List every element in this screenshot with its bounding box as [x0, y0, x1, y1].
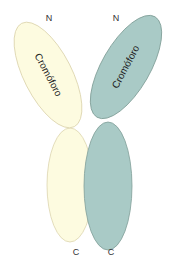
- left-c-terminus-label: C: [73, 247, 80, 257]
- right-c-domain: [84, 122, 132, 250]
- left-n-terminus-label: N: [46, 13, 53, 23]
- right-n-terminus-label: N: [113, 13, 120, 23]
- right-c-terminus-label: C: [108, 247, 115, 257]
- dimer-diagram: N N Cromóforo Cromóforo C C: [0, 0, 169, 262]
